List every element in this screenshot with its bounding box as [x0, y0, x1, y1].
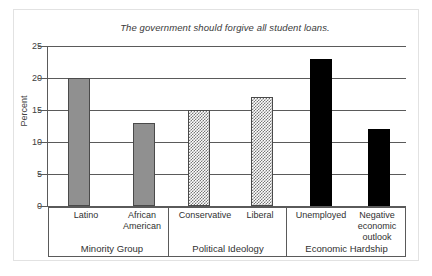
category-label-negative-outlook-line3: outlook — [350, 232, 404, 243]
gridline-5 — [48, 174, 406, 175]
band-top-line — [48, 207, 406, 208]
bar-negative-outlook — [368, 129, 390, 206]
category-label-latino-line1: Latino — [56, 210, 116, 221]
category-label-latino: Latino — [56, 210, 116, 221]
gridline-20 — [48, 78, 406, 79]
gridline-10 — [48, 142, 406, 143]
category-label-conservative: Conservative — [170, 210, 240, 221]
category-label-negative-outlook: Negative economic outlook — [350, 210, 404, 243]
category-label-african-american: African American — [114, 210, 170, 232]
bar-liberal — [251, 97, 273, 206]
category-label-negative-outlook-line2: economic — [350, 221, 404, 232]
category-label-unemployed: Unemployed — [288, 210, 354, 221]
category-label-negative-outlook-line1: Negative — [350, 210, 404, 221]
group-label-minority-group: Minority Group — [56, 243, 168, 254]
category-label-liberal-line1: Liberal — [236, 210, 284, 221]
category-label-band: Latino African American Minority Group C… — [48, 207, 406, 257]
band-divider-left — [48, 207, 49, 257]
bar-unemployed — [310, 59, 332, 206]
y-axis-ticks: 25 20 15 10 5 0 — [0, 46, 48, 206]
category-label-african-american-line1: African — [114, 210, 170, 221]
chart-title: The government should forgive all studen… — [40, 22, 410, 33]
bar-chart-figure: The government should forgive all studen… — [0, 0, 432, 276]
band-divider-right — [405, 207, 406, 257]
plot-area — [48, 46, 406, 206]
y-tick-mark-5 — [38, 174, 47, 175]
category-label-unemployed-line1: Unemployed — [288, 210, 354, 221]
y-tick-mark-20 — [38, 78, 47, 79]
group-label-political-ideology: Political Ideology — [170, 243, 286, 254]
y-tick-mark-25 — [38, 46, 47, 47]
gridline-25 — [48, 46, 406, 47]
bar-conservative — [188, 110, 210, 206]
category-label-conservative-line1: Conservative — [170, 210, 240, 221]
group-label-economic-hardship: Economic Hardship — [288, 243, 405, 254]
bar-latino — [68, 78, 90, 206]
y-tick-mark-0 — [38, 206, 47, 207]
category-label-liberal: Liberal — [236, 210, 284, 221]
gridline-15 — [48, 110, 406, 111]
band-divider-2 — [286, 207, 287, 257]
category-label-african-american-line2: American — [114, 221, 170, 232]
bar-african-american — [133, 123, 155, 206]
y-tick-mark-15 — [38, 110, 47, 111]
band-bottom-line — [48, 256, 406, 257]
y-tick-mark-10 — [38, 142, 47, 143]
